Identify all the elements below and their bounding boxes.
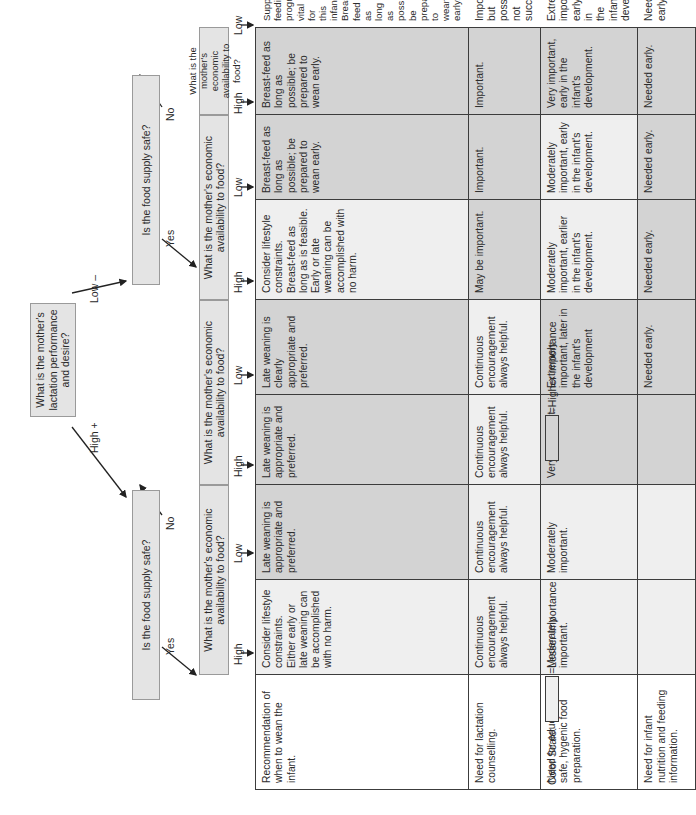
cell: Late weaning is appropriate and preferre… [256,485,469,580]
row-lactation-counselling: Need for lactation counselling. Continuo… [468,28,540,790]
low-label-4: Low [232,16,244,35]
cell: May be important. [468,200,540,300]
row-label: Need for infant nutrition and feeding in… [638,675,696,790]
economic-question-1: What is the mother's economic availabili… [202,490,227,670]
economic-question-box-2: What is the mother's economic availabili… [199,300,229,485]
economic-question-box-1: What is the mother's economic availabili… [199,485,229,675]
cell: Consider lifestyle constraints. Breast-f… [256,200,469,300]
high-label-2: High [232,455,244,477]
row-nutrition-information: Need for infant nutrition and feeding in… [638,28,696,790]
cell: Needed early. [638,300,696,395]
right-yes-label: Yes [164,230,176,247]
cell: Late weaning is clearly appropriate and … [256,300,469,395]
economic-question-3: What is the mother's economic availabili… [202,120,227,295]
row-label: Need for lactation counselling. [468,675,540,790]
high-label-3: High [232,271,244,293]
left-yes-label: Yes [164,638,176,655]
cell: Needed early. [638,28,696,115]
cell: Breast-feed as long as possible; be prep… [256,28,469,115]
right-food-safe-box: Is the food supply safe? [132,75,160,285]
cell: Needed early. [638,115,696,200]
root-low-label: Low – [88,275,100,303]
higher-importance-label: =Higher importance [546,321,558,413]
higher-importance-swatch [545,415,559,461]
lesser-importance-label: =Lesser importance [546,581,558,674]
outcome-table: Recommendation of when to wean the infan… [255,27,696,790]
cell: Moderately important, early in the infan… [541,115,638,200]
low-label-1: Low [232,544,244,563]
low-label-3: Low [232,178,244,197]
row-label: Recommendation of when to wean the infan… [256,675,469,790]
left-food-safe-box: Is the food supply safe? [132,490,160,700]
economic-question-box-4: What is the mother's economic availabili… [199,27,229,115]
root-high-label: High + [88,422,100,453]
legend-title: Color Scale: [546,728,558,785]
cell [638,485,696,580]
cell: Continuous encouragement always helpful. [468,300,540,395]
right-food-safe-question: Is the food supply safe? [140,125,153,236]
cell: Continuous encouragement always helpful. [468,580,540,675]
cell: Very important, early in the infant's de… [541,28,638,115]
lesser-importance-swatch [545,676,559,722]
cell: Late weaning is appropriate and preferre… [256,395,469,485]
left-food-safe-question: Is the food supply safe? [140,540,153,651]
color-scale-legend: Color Scale: =Lesser importance =Higher … [545,321,559,785]
cell: Continuous encouragement always helpful. [468,485,540,580]
cell [638,395,696,485]
cell: Breast-feed as long as possible; be prep… [256,115,469,200]
low-label-2: Low [232,366,244,385]
cell: Needed early. [638,200,696,300]
row-weaning-recommendation: Recommendation of when to wean the infan… [256,28,469,790]
high-label-4: High [232,92,244,114]
economic-question-box-3: What is the mother's economic availabili… [199,115,229,300]
cell: Moderately important, earlier in the inf… [541,200,638,300]
right-no-label: No [164,108,176,121]
economic-question-2: What is the mother's economic availabili… [202,305,227,480]
cell: Important. [468,115,540,200]
cell: Important. [468,28,540,115]
cell: Consider lifestyle constraints. Either e… [256,580,469,675]
high-label-1: High [232,643,244,665]
left-no-label: No [164,517,176,530]
cell [638,580,696,675]
cell: Continuous encouragement always helpful. [468,395,540,485]
